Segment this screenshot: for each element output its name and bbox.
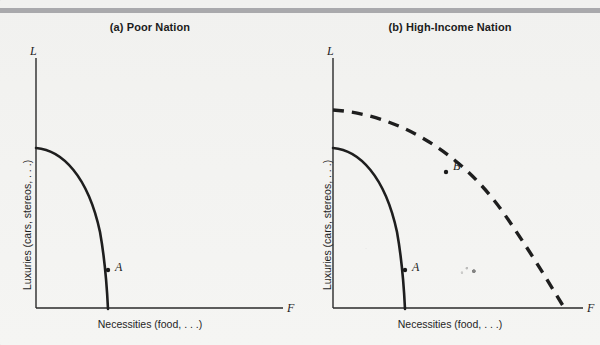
- point-a-label: A: [411, 260, 420, 274]
- panel-b-x-axis-label: Necessities (food, . . .): [300, 318, 600, 330]
- point-a-marker: [403, 268, 407, 272]
- panel-b-y-axis-label: Luxuries (cars, stereos, . . .): [321, 160, 333, 290]
- x-axis-letter: F: [286, 301, 295, 315]
- panel-b-plot: B A L F: [300, 0, 600, 345]
- point-b-marker: [444, 170, 448, 174]
- ppf-curve-dashed-expanded: [333, 110, 565, 309]
- x-axis-letter: F: [586, 301, 595, 315]
- point-b-label: B: [453, 159, 461, 173]
- figure-container: (a) Poor Nation A L F Necessities (food,…: [0, 0, 600, 345]
- point-a-label: A: [114, 260, 123, 274]
- ppf-curve-solid: [36, 148, 108, 309]
- y-axis-letter: L: [29, 44, 37, 58]
- y-axis-letter: L: [326, 44, 334, 58]
- panel-high-income-nation: (b) High-Income Nation B A L F Necessiti…: [300, 0, 600, 345]
- panel-poor-nation: (a) Poor Nation A L F Necessities (food,…: [0, 0, 300, 345]
- point-a-marker: [106, 268, 110, 272]
- panel-a-x-axis-label: Necessities (food, . . .): [0, 318, 300, 330]
- panel-a-plot: A L F: [0, 0, 300, 345]
- ppf-curve-solid-original: [333, 148, 405, 309]
- panel-a-y-axis-label: Luxuries (cars, stereos, . . .): [21, 160, 33, 290]
